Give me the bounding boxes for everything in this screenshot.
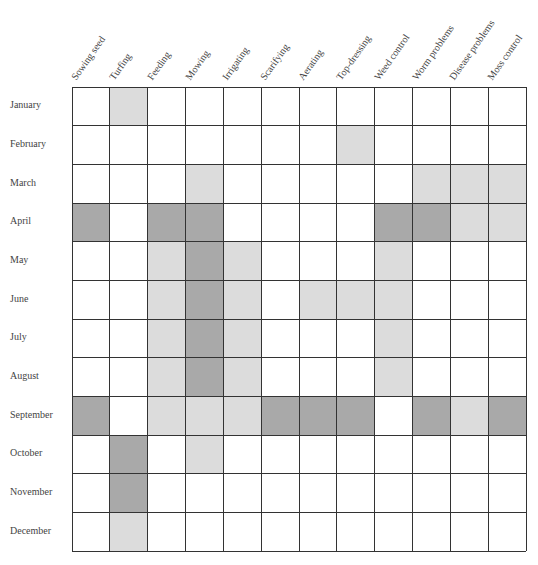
shaded-cell: [375, 203, 413, 242]
row-label: February: [10, 138, 46, 149]
row-label: July: [10, 331, 27, 342]
shaded-cell: [223, 358, 261, 397]
grid-line-horizontal: [72, 473, 526, 474]
shaded-cell: [186, 280, 224, 319]
shaded-cell: [148, 280, 186, 319]
shaded-cell: [186, 396, 224, 435]
shaded-cell: [186, 319, 224, 358]
shaded-cell: [186, 164, 224, 203]
column-label: Top-dressing: [334, 33, 373, 82]
shaded-cell: [223, 242, 261, 281]
shaded-cell: [450, 203, 488, 242]
shaded-cell: [488, 396, 526, 435]
calendar-grid: [72, 87, 526, 551]
shaded-cell: [299, 396, 337, 435]
grid-line-horizontal: [72, 319, 526, 320]
shaded-cell: [186, 242, 224, 281]
shaded-cell: [72, 396, 110, 435]
column-label: Sowing seed: [69, 34, 107, 82]
shaded-cell: [223, 319, 261, 358]
shaded-cell: [299, 280, 337, 319]
shaded-cell: [110, 435, 148, 474]
column-label: Scarifying: [258, 42, 291, 82]
shaded-cell: [223, 396, 261, 435]
shaded-cell: [413, 164, 451, 203]
shaded-cell: [413, 203, 451, 242]
shaded-cell: [186, 435, 224, 474]
column-label: Weed control: [372, 32, 412, 82]
shaded-cell: [72, 203, 110, 242]
shaded-cell: [148, 242, 186, 281]
shaded-cell: [375, 358, 413, 397]
shaded-cell: [375, 319, 413, 358]
row-label: April: [10, 215, 31, 226]
shaded-cell: [148, 203, 186, 242]
row-label: May: [10, 254, 28, 265]
row-label: June: [10, 293, 28, 304]
column-label: Turfing: [107, 51, 133, 82]
shaded-cell: [186, 203, 224, 242]
shaded-cell: [413, 396, 451, 435]
shaded-cell: [488, 164, 526, 203]
row-label: November: [10, 486, 52, 497]
shaded-cell: [110, 87, 148, 126]
column-label: Aerating: [296, 47, 325, 82]
shaded-cell: [337, 280, 375, 319]
shaded-cell: [337, 396, 375, 435]
shaded-cell: [223, 280, 261, 319]
lawn-care-calendar-chart: Sowing seedTurfingFeedingMowingIrrigatin…: [0, 0, 538, 565]
shaded-cell: [148, 358, 186, 397]
shaded-cell: [110, 474, 148, 513]
row-label: August: [10, 370, 39, 381]
grid-line-horizontal: [72, 241, 526, 242]
column-label: Feeding: [145, 49, 172, 82]
row-label: March: [10, 177, 36, 188]
grid-line-horizontal: [72, 551, 526, 552]
grid-line-horizontal: [72, 280, 526, 281]
grid-line-horizontal: [72, 357, 526, 358]
grid-line-horizontal: [72, 164, 526, 165]
row-label: December: [10, 525, 51, 536]
shaded-cell: [450, 396, 488, 435]
shaded-cell: [186, 358, 224, 397]
shaded-cell: [488, 203, 526, 242]
shaded-cell: [148, 396, 186, 435]
grid-line-horizontal: [72, 125, 526, 126]
row-label: October: [10, 447, 42, 458]
shaded-cell: [148, 319, 186, 358]
grid-line-horizontal: [72, 396, 526, 397]
shaded-cell: [450, 164, 488, 203]
row-label: September: [10, 409, 53, 420]
row-label: January: [10, 99, 41, 110]
shaded-cell: [261, 396, 299, 435]
shaded-cell: [110, 512, 148, 551]
grid-line-horizontal: [72, 512, 526, 513]
column-label: Mowing: [182, 48, 210, 82]
shaded-cell: [375, 280, 413, 319]
shaded-cell: [337, 126, 375, 165]
column-label: Moss control: [485, 33, 524, 82]
column-label: Irrigating: [220, 45, 251, 82]
grid-line-horizontal: [72, 435, 526, 436]
shaded-cell: [375, 242, 413, 281]
grid-line-horizontal: [72, 203, 526, 204]
grid-line-horizontal: [72, 87, 526, 88]
